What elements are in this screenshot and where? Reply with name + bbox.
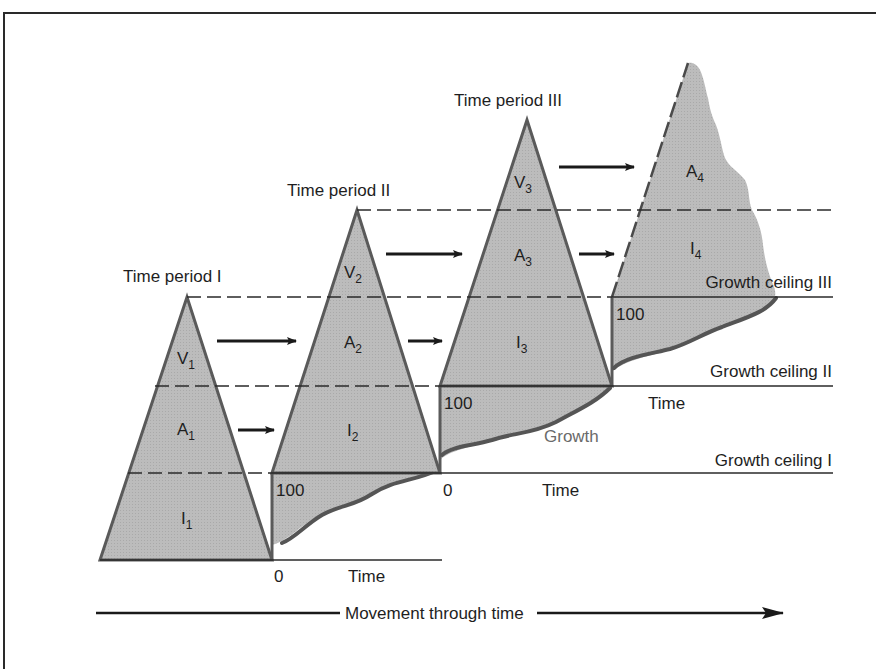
- axis-100-period-3: 100: [444, 394, 472, 413]
- movement-label: Movement through time: [345, 604, 524, 623]
- growth-ceiling-diagram: Time period I Time period II Time period…: [0, 0, 876, 669]
- growth-ceiling-1-label: Growth ceiling I: [715, 451, 832, 470]
- growth-label: Growth: [544, 427, 599, 446]
- axis-0-period-3: 0: [443, 481, 452, 500]
- period-3-title: Time period III: [454, 91, 562, 110]
- movement-through-time-arrow: Movement through time: [96, 604, 783, 623]
- axis-time-period-2: Time: [348, 567, 385, 586]
- period-1-title: Time period I: [123, 267, 222, 286]
- growth-ceiling-2-label: Growth ceiling II: [710, 362, 832, 381]
- axis-time-period-4: Time: [648, 394, 685, 413]
- axis-time-period-3: Time: [542, 481, 579, 500]
- axis-100-period-4: 100: [616, 305, 644, 324]
- period-2-title: Time period II: [287, 181, 390, 200]
- axis-100-period-2: 100: [276, 481, 304, 500]
- growth-ceiling-3-label: Growth ceiling III: [705, 273, 832, 292]
- axis-0-period-2: 0: [274, 567, 283, 586]
